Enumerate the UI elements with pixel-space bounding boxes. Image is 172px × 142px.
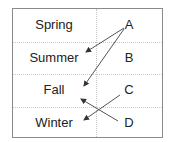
- arrow-a-fall: [84, 29, 124, 86]
- arrows-layer: [0, 0, 172, 142]
- arrow-a-summer: [86, 28, 124, 52]
- arrow-c-winter: [84, 95, 120, 120]
